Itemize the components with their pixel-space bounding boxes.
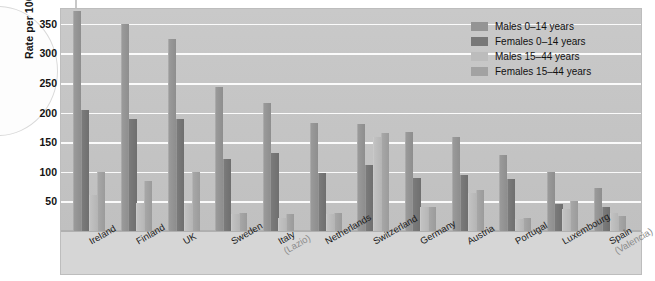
- y-tick-label-100: 100: [39, 166, 57, 178]
- legend-label: Females 15–44 years: [495, 66, 591, 77]
- bar-group: [357, 9, 388, 231]
- legend-swatch: [471, 52, 488, 61]
- legend-label: Males 15–44 years: [495, 51, 580, 62]
- bar-group: [263, 9, 294, 231]
- bar: [144, 181, 152, 231]
- legend-item: Females 0–14 years: [471, 34, 639, 48]
- legend-label: Females 0–14 years: [495, 36, 586, 47]
- x-axis-labels: IrelandFinlandUKSwedenItaly(Lazio)Nether…: [61, 233, 641, 281]
- chart-legend: Males 0–14 yearsFemales 0–14 yearsMales …: [471, 19, 639, 79]
- bar-group: [121, 9, 152, 231]
- legend-swatch: [471, 22, 488, 31]
- bar-group: [405, 9, 436, 231]
- y-tick-label-250: 250: [39, 77, 57, 89]
- legend-item: Males 15–44 years: [471, 49, 639, 63]
- legend-swatch: [471, 67, 488, 76]
- bar-chart: 50100150200250300350 Rate per 100,000 po…: [60, 8, 642, 275]
- legend-swatch: [471, 37, 488, 46]
- bar-group: [215, 9, 246, 231]
- x-axis-label: UK: [181, 230, 198, 246]
- bar: [97, 172, 105, 231]
- bar: [192, 172, 200, 231]
- legend-item: Females 15–44 years: [471, 64, 639, 78]
- bar-group: [310, 9, 341, 231]
- y-tick-label-350: 350: [39, 18, 57, 30]
- y-tick-label-50: 50: [45, 195, 57, 207]
- y-tick-label-150: 150: [39, 136, 57, 148]
- y-axis-title: Rate per 100,000 population: [23, 0, 35, 59]
- bar-group: [168, 9, 199, 231]
- bar: [476, 190, 484, 231]
- legend-item: Males 0–14 years: [471, 19, 639, 33]
- legend-label: Males 0–14 years: [495, 21, 574, 32]
- y-tick-label-200: 200: [39, 107, 57, 119]
- bar: [381, 133, 389, 231]
- y-tick-label-300: 300: [39, 47, 57, 59]
- bar-group: [73, 9, 104, 231]
